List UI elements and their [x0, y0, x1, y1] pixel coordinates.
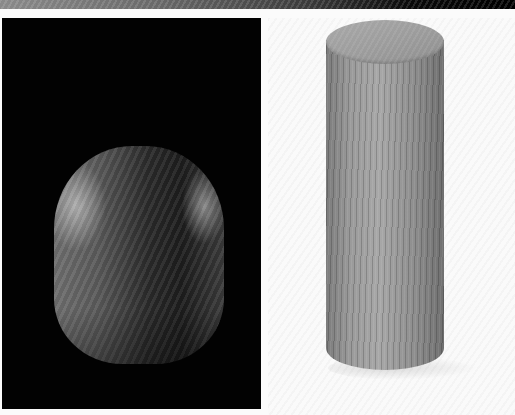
right-panel-caption: Wooden cylinder — [268, 18, 269, 19]
wooden-cylinder-top — [326, 20, 444, 64]
block-shadow — [54, 308, 224, 368]
left-panel-caption: Rounded wooden block — [2, 18, 3, 19]
wooden-cylinder-body — [326, 40, 444, 370]
photo-panel-left: Rounded wooden block — [2, 18, 261, 409]
photo-panel-right: Wooden cylinder — [268, 18, 515, 415]
top-photo-strip — [0, 0, 515, 9]
